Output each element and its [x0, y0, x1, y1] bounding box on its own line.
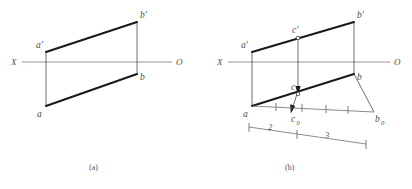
panel-b-label-b0-base: b [375, 114, 380, 124]
panel-a-axis-label-x: X [10, 57, 17, 67]
panel-b-label-c0-base: c [291, 114, 296, 124]
panel-a-line-a-prime-b-prime [46, 22, 137, 52]
panel-b-axis-label-o: O [394, 57, 401, 67]
panel-a-line-a-b [46, 74, 137, 106]
geometry-drawing: X O a' b' b a (a) [0, 0, 412, 189]
panel-b-caption: (b) [285, 163, 295, 172]
panel-b-line-a-prime-b-prime [252, 22, 354, 52]
panel-a: X O a' b' b a (a) [10, 10, 183, 172]
panel-a-label-a-prime: a' [36, 40, 44, 50]
panel-b-label-c: c [291, 82, 296, 92]
panel-a-label-b: b [140, 72, 145, 82]
panel-a-label-b-prime: b' [140, 10, 148, 20]
panel-b-label-a: a [243, 109, 248, 119]
panel-b-point-c [296, 92, 300, 96]
panel-b-label-b: b [357, 72, 362, 82]
panel-b: X O a' b' c' b c a c 0 b 0 2 3 (b) [216, 10, 401, 172]
panel-b-dimension-value-3: 3 [324, 130, 329, 140]
panel-b-point-c-prime [296, 36, 300, 40]
panel-b-label-c0-subscript: 0 [297, 119, 301, 126]
panel-b-label-b0: b 0 [375, 114, 385, 126]
panel-b-axis-label-x: X [216, 57, 223, 67]
panel-a-caption: (a) [89, 163, 98, 172]
panel-b-label-a-prime: a' [241, 40, 249, 50]
panel-b-dimension-line-lower [249, 127, 366, 144]
panel-b-label-c0: c 0 [291, 114, 301, 126]
panel-b-measure-line-upper [252, 106, 374, 112]
panel-a-axis-label-o: O [176, 57, 183, 67]
figure-canvas: X O a' b' b a (a) [0, 0, 412, 189]
panel-a-label-a: a [37, 109, 42, 119]
panel-b-label-b-prime: b' [357, 10, 365, 20]
panel-b-line-a-b [252, 74, 354, 106]
panel-b-label-b0-subscript: 0 [381, 119, 385, 126]
panel-b-label-c-prime: c' [292, 25, 299, 35]
panel-b-arrowhead-c0 [290, 104, 295, 113]
